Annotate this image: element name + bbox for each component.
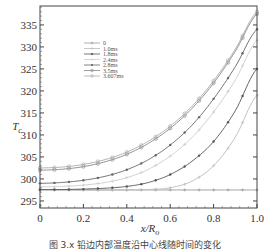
y-tick-label: 330 xyxy=(21,41,38,53)
x-tick-label: 1.0 xyxy=(250,212,264,224)
x-axis-title: x/Ro xyxy=(140,222,160,237)
series-1.8ms xyxy=(39,68,258,191)
series-2.8ms xyxy=(39,28,258,184)
x-tick-label: 0.8 xyxy=(207,212,221,224)
y-tick-label: 325 xyxy=(21,63,38,75)
legend-label: 3.607ms xyxy=(103,73,124,79)
y-tick-label: 305 xyxy=(21,151,38,163)
y-tick-label: 320 xyxy=(21,85,38,97)
y-tick-label: 295 xyxy=(21,195,38,207)
series-1.0ms xyxy=(39,94,259,192)
y-tick-label: 315 xyxy=(21,107,38,119)
legend-item: 3.607ms xyxy=(84,73,124,79)
series-3.5ms xyxy=(38,12,258,171)
y-tick-label: 300 xyxy=(21,173,38,185)
plot-series xyxy=(38,10,258,191)
plot-frame xyxy=(40,6,257,208)
x-tick-label: 0.4 xyxy=(120,212,134,224)
x-axis: 00.20.40.60.81.0 xyxy=(37,204,264,224)
series-3.607ms xyxy=(38,10,258,169)
y-axis-title: Tc xyxy=(12,120,22,135)
y-tick-label: 335 xyxy=(21,19,38,31)
x-tick-label: 0.2 xyxy=(77,212,91,224)
y-tick-label: 310 xyxy=(21,129,38,141)
y-axis: 295300305310315320325330335 xyxy=(21,7,258,207)
x-tick-label: 0.6 xyxy=(163,212,177,224)
legend: 01.0ms1.8ms2.4ms2.8ms3.5ms3.607ms xyxy=(84,40,124,79)
figure-caption: 图 3.x 铅边内部温度沿中心线随时间的变化 xyxy=(0,238,270,251)
x-tick-label: 0 xyxy=(37,212,43,224)
